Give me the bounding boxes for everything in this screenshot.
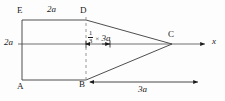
vertex-label-E: E: [17, 6, 23, 15]
vertex-label-D: D: [80, 6, 87, 15]
fraction-numerator: 1: [88, 30, 93, 37]
vertex-label-A: A: [17, 82, 24, 91]
vertex-label-C: C: [168, 30, 174, 39]
vertex-label-B: B: [79, 80, 85, 89]
rectangle-outline: [22, 20, 86, 80]
figure-canvas: [0, 0, 225, 101]
centroid-term-3a: 3a: [101, 33, 110, 43]
dimension-label-left-2a: 2a: [4, 38, 13, 47]
dimension-label-base-3a: 3a: [138, 85, 147, 94]
x-axis-label: x: [212, 37, 216, 46]
dimension-label-top-2a: 2a: [47, 5, 56, 14]
fraction-denominator: 3: [88, 38, 93, 45]
multiplication-sign: ×: [95, 35, 99, 43]
edge-BC: [86, 44, 172, 80]
centroid-offset-label: 1 3 × 3a: [88, 28, 110, 43]
geometry-figure: E D A B C x 2a 2a 3a 1 3 × 3a: [0, 0, 225, 101]
fraction-one-third: 1 3: [88, 30, 93, 44]
